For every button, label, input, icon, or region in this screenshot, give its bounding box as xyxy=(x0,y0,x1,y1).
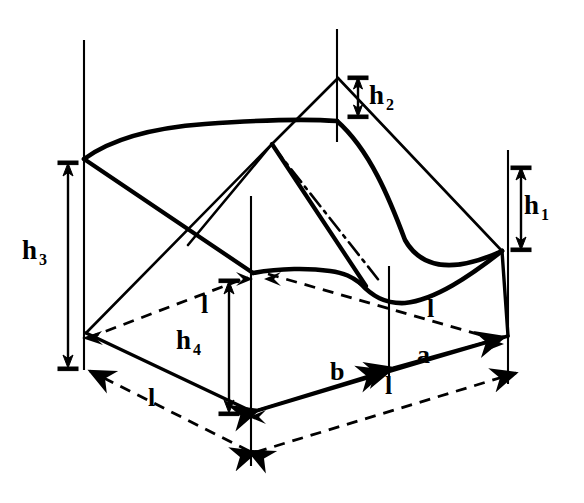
label-l-mid-left-base: l xyxy=(201,290,208,319)
edge-saddle-to-lowerleft xyxy=(188,144,272,245)
label-a-base: a xyxy=(417,340,430,369)
generator-center-down-right xyxy=(272,144,366,286)
label-l-mid-left: l xyxy=(201,292,208,318)
saddle-surface-upper xyxy=(84,120,502,265)
dim-h1-cap-bottom xyxy=(511,248,531,252)
label-h2: h2 xyxy=(369,82,392,109)
label-h4: h4 xyxy=(176,327,199,354)
label-l-mid-right-base: l xyxy=(427,294,434,323)
label-h2-sub: 2 xyxy=(386,96,394,113)
dim-b-arrow xyxy=(258,371,385,410)
edge-back-left-upper xyxy=(84,120,337,159)
label-h1: h1 xyxy=(524,192,547,219)
dim-h2 xyxy=(348,76,368,119)
ridge-peak-to-saddle xyxy=(272,78,338,144)
dim-h1-cap-top xyxy=(511,166,531,170)
label-b-base: b xyxy=(330,357,344,386)
label-h1-base: h xyxy=(524,190,539,220)
dim-h3-cap-top xyxy=(58,161,78,165)
dim-h4-cap-top xyxy=(219,279,239,283)
dim-a-arrow xyxy=(393,337,504,368)
dim-l-bottom-left xyxy=(90,371,249,451)
generator-lines xyxy=(84,144,366,286)
label-b: b xyxy=(330,359,344,385)
label-h3: h3 xyxy=(22,237,45,264)
label-h3-sub: 3 xyxy=(39,251,47,268)
label-l-bottom-left: l xyxy=(148,385,155,411)
label-a: a xyxy=(417,342,430,368)
dim-h2-cap-top xyxy=(348,76,368,80)
dim-h4-cap-bottom xyxy=(219,412,239,416)
saddle-roof-diagram: h1 h2 h3 h4 l l l l a b xyxy=(0,0,584,503)
label-l-bottom-right-base: l xyxy=(385,371,392,400)
label-l-bottom-left-base: l xyxy=(148,383,155,412)
mid-level-dashed xyxy=(88,274,502,341)
ridge-peak-to-right xyxy=(338,78,502,251)
edge-back-right-upper xyxy=(337,121,502,265)
dashed-midright-edge xyxy=(268,274,502,341)
label-l-mid-right: l xyxy=(427,296,434,322)
dim-h4 xyxy=(219,279,239,416)
label-h1-sub: 1 xyxy=(541,206,549,223)
dim-h3 xyxy=(58,161,78,371)
dim-h2-cap-bottom xyxy=(348,115,368,119)
plan-dimension-arrows xyxy=(258,337,504,410)
label-h3-base: h xyxy=(22,235,37,265)
label-h4-sub: 4 xyxy=(193,341,201,358)
diagram-canvas xyxy=(0,0,584,503)
label-h4-base: h xyxy=(176,325,191,355)
generator-left-down xyxy=(84,159,253,273)
label-h2-base: h xyxy=(369,80,384,110)
dim-h3-cap-bottom xyxy=(58,367,78,371)
label-l-bottom-right: l xyxy=(385,373,392,399)
